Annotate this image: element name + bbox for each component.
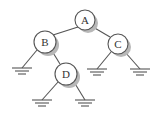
node-a-label: A bbox=[81, 14, 89, 26]
null-marker-b-left bbox=[12, 68, 32, 74]
edge-a-b bbox=[53, 27, 78, 35]
null-marker-c-left bbox=[87, 69, 107, 75]
edge-b-null-left bbox=[22, 50, 37, 68]
edge-c-null-left bbox=[97, 52, 111, 69]
node-c-label: C bbox=[114, 38, 121, 50]
null-marker-c-right bbox=[130, 69, 150, 75]
node-d-label: D bbox=[62, 68, 70, 80]
node-c: C bbox=[108, 34, 131, 57]
node-a: A bbox=[75, 10, 98, 33]
null-marker-d-left bbox=[32, 100, 52, 106]
null-marker-d-right bbox=[75, 100, 95, 106]
node-d: D bbox=[55, 63, 80, 88]
binary-tree-diagram: A B C D bbox=[0, 0, 159, 117]
node-b-label: B bbox=[41, 36, 48, 48]
edge-d-null-left bbox=[42, 82, 58, 100]
